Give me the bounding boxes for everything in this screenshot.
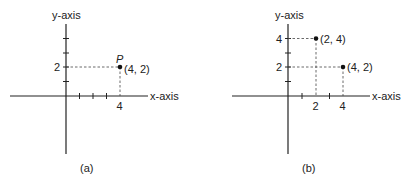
point-2-4 [314, 36, 319, 41]
point-p [118, 65, 123, 70]
y-axis-label: y-axis [52, 9, 81, 21]
x-axis-label: x-axis [150, 90, 179, 102]
point-label: (4, 2) [347, 61, 373, 73]
x-tick-label: 2 [313, 100, 319, 112]
point-4-2 [341, 65, 346, 70]
y-tick-label: 2 [276, 61, 282, 73]
panel-b: y-axis x-axis 2 4 2 4 (2, 4) (4, 2) (b) [232, 9, 401, 174]
point-name: P [116, 53, 124, 65]
panel-caption: (a) [80, 162, 93, 174]
point-label: (2, 4) [320, 33, 346, 45]
x-axis-label: x-axis [372, 90, 401, 102]
x-tick-label: 4 [117, 100, 123, 112]
y-tick-label: 4 [276, 33, 282, 45]
x-tick-label: 4 [340, 100, 346, 112]
y-axis-label: y-axis [275, 9, 304, 21]
panel-a: y-axis x-axis 2 4 P (4, 2) (a) [10, 9, 179, 174]
panel-caption: (b) [302, 162, 315, 174]
point-label: (4, 2) [124, 63, 150, 75]
coordinate-diagrams: y-axis x-axis 2 4 P (4, 2) (a) y-axis x-… [0, 0, 410, 180]
y-tick-label: 2 [54, 61, 60, 73]
